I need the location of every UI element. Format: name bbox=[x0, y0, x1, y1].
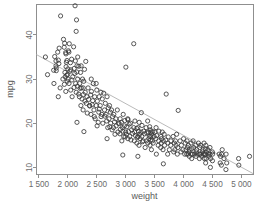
y-axis-title: mpg bbox=[5, 80, 15, 98]
svg-text:4 500: 4 500 bbox=[202, 180, 223, 189]
x-axis-title: weight bbox=[130, 191, 158, 201]
svg-text:20: 20 bbox=[25, 118, 34, 128]
svg-text:2 500: 2 500 bbox=[87, 180, 108, 189]
svg-text:3 500: 3 500 bbox=[144, 180, 165, 189]
plot-canvas: 1 5002 0002 5003 0003 5004 0004 5005 000… bbox=[0, 0, 263, 215]
svg-text:10: 10 bbox=[25, 162, 34, 172]
svg-text:5 000: 5 000 bbox=[231, 180, 252, 189]
scatter-plot-figure: 1 5002 0002 5003 0003 5004 0004 5005 000… bbox=[0, 0, 263, 215]
svg-text:30: 30 bbox=[25, 74, 34, 84]
svg-text:2 000: 2 000 bbox=[58, 180, 79, 189]
svg-text:4 000: 4 000 bbox=[173, 180, 194, 189]
svg-text:1 500: 1 500 bbox=[29, 180, 50, 189]
svg-text:40: 40 bbox=[25, 30, 34, 40]
svg-text:3 000: 3 000 bbox=[115, 180, 136, 189]
